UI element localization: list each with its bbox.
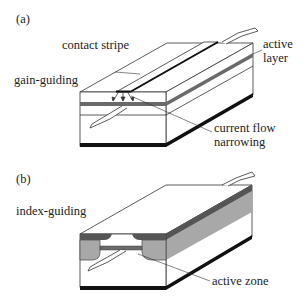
current-flow-label-line1: current flow xyxy=(214,122,275,135)
laser-diagram xyxy=(0,0,307,304)
active-layer-label-line2: layer xyxy=(263,52,288,65)
contact-stripe-label: contact stripe xyxy=(62,39,129,52)
current-flow-label-line2: narrowing xyxy=(214,136,265,149)
active-zone-label: active zone xyxy=(212,275,269,288)
index-guided-laser-block xyxy=(80,172,255,290)
index-guiding-title: index-guiding xyxy=(16,205,86,218)
gain-guiding-title: gain-guiding xyxy=(14,74,78,87)
panel-b-tag: (b) xyxy=(16,173,31,186)
active-layer-label-line1: active xyxy=(263,38,293,51)
panel-a-tag: (a) xyxy=(16,13,30,26)
